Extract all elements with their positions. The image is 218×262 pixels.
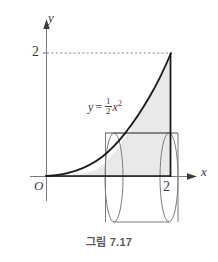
y-axis-tick-label-2: 2 xyxy=(32,45,39,59)
plot-canvas xyxy=(0,0,218,262)
y-axis-label: y xyxy=(48,11,54,24)
equation-fraction-denominator: 2 xyxy=(105,107,112,116)
curve-equation-label: y=12x2 xyxy=(88,97,122,117)
x-axis-tick-label-2: 2 xyxy=(163,180,170,194)
equation-fraction: 12 xyxy=(105,97,112,117)
origin-label: O xyxy=(34,179,43,192)
x-axis-arrow-icon xyxy=(187,173,197,179)
equation-exponent: 2 xyxy=(118,99,122,108)
equation-operator: = xyxy=(93,100,104,114)
x-axis-label: x xyxy=(201,165,207,178)
figure-container: y x O 2 2 y=12x2 그림 7.17 xyxy=(0,0,218,262)
figure-caption: 그림 7.17 xyxy=(0,233,218,249)
